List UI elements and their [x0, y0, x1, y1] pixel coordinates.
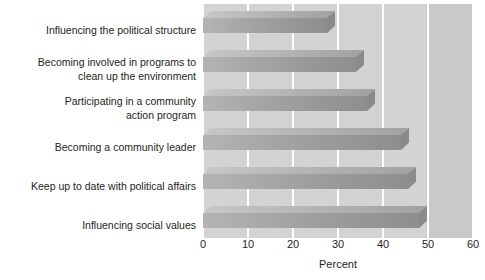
x-axis-title: Percent: [203, 258, 473, 270]
x-tick-label-40: 40: [377, 238, 389, 250]
category-label: Keep up to date with political affairs: [0, 180, 196, 194]
category-label-line: clean up the environment: [0, 70, 196, 84]
category-label-line: Becoming a community leader: [0, 141, 196, 155]
bar-row: [203, 199, 473, 238]
x-tick-label-60: 60: [467, 238, 479, 250]
bar-front-face: [203, 174, 408, 189]
bar: [203, 206, 419, 226]
category-label-line: action program: [0, 109, 196, 123]
category-label-line: Participating in a community: [0, 95, 196, 109]
bar-front-face: [203, 135, 401, 150]
x-tick-label-0: 0: [200, 238, 206, 250]
bar-row: [203, 82, 473, 121]
bar: [203, 50, 356, 70]
category-label-line: Influencing social values: [0, 219, 196, 233]
bar-front-face: [203, 213, 419, 228]
bar-row: [203, 43, 473, 82]
value-axis-ticks: 0102030405060: [203, 238, 473, 258]
bar: [203, 11, 327, 31]
bar: [203, 89, 367, 109]
category-label: Becoming involved in programs toclean up…: [0, 56, 196, 83]
category-label: Becoming a community leader: [0, 141, 196, 155]
category-label-line: Keep up to date with political affairs: [0, 180, 196, 194]
x-tick-label-30: 30: [332, 238, 344, 250]
bar-front-face: [203, 96, 367, 111]
category-label-line: Influencing the political structure: [0, 24, 196, 38]
plot-area: [203, 4, 473, 238]
category-label: Influencing social values: [0, 219, 196, 233]
bar-chart: Influencing the political structureBecom…: [0, 0, 485, 280]
x-tick-label-20: 20: [287, 238, 299, 250]
bar-front-face: [203, 18, 327, 33]
bar-row: [203, 160, 473, 199]
category-label: Participating in a communityaction progr…: [0, 95, 196, 122]
bar-row: [203, 4, 473, 43]
bar: [203, 128, 401, 148]
bar: [203, 167, 408, 187]
x-tick-label-10: 10: [242, 238, 254, 250]
category-axis-labels: Influencing the political structureBecom…: [0, 4, 196, 238]
bar-front-face: [203, 57, 356, 72]
category-label-line: Becoming involved in programs to: [0, 56, 196, 70]
category-label: Influencing the political structure: [0, 24, 196, 38]
bar-row: [203, 121, 473, 160]
x-tick-label-50: 50: [422, 238, 434, 250]
